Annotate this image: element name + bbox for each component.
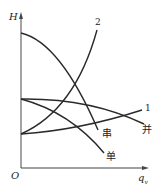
curve-label-1: 1 xyxy=(145,104,151,113)
curve-parallel xyxy=(21,99,144,124)
curve-label-parallel: 并 xyxy=(142,125,152,135)
x-axis-arrow-icon xyxy=(142,166,149,170)
origin-label: O xyxy=(11,171,19,181)
curve-label-series: 串 xyxy=(102,129,112,139)
y-axis-arrow-icon xyxy=(19,12,23,19)
x-axis-label: qv xyxy=(138,173,148,185)
diagram-canvas xyxy=(0,0,162,194)
y-axis-label: H xyxy=(9,12,18,22)
curve-single xyxy=(21,99,104,153)
curve-label-2: 2 xyxy=(95,18,101,27)
curve-label-single: 单 xyxy=(106,152,116,162)
curve-pipeline-2 xyxy=(21,30,97,134)
